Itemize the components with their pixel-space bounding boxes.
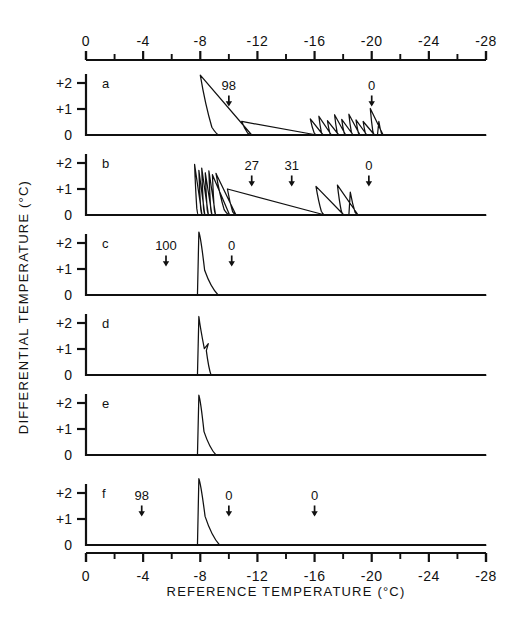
x-tick-label: -28 [475, 568, 497, 584]
x-tick-label: -20 [361, 568, 383, 584]
annotation-value: 27 [244, 158, 258, 173]
x-tick-label: -8 [194, 568, 207, 584]
x-tick-label: -20 [361, 33, 383, 49]
dta-figure: 0-4-8-12-16-20-24-28 0-4-8-12-16-20-24-2… [0, 0, 526, 629]
y-tick-label: +1 [56, 101, 72, 117]
annotation-0: 0 [225, 488, 232, 516]
panel-letter-d: d [102, 316, 109, 331]
x-tick-label: -16 [304, 568, 326, 584]
y-tick-label: +2 [56, 235, 72, 251]
annotation-value: 98 [134, 488, 148, 503]
dta-plot-svg: 0-4-8-12-16-20-24-28 0-4-8-12-16-20-24-2… [0, 0, 526, 629]
annotation-value: 0 [365, 158, 372, 173]
y-tick-label: +2 [56, 155, 72, 171]
panel-letter-a: a [102, 76, 110, 91]
annotation-value: 0 [368, 78, 375, 93]
x-tick-label: 0 [82, 33, 90, 49]
annotation-value: 0 [225, 488, 232, 503]
x-tick-label: -4 [136, 568, 149, 584]
y-axis-title: DIFFERENTIAL TEMPERATURE (°C) [16, 180, 31, 434]
y-tick-label: +1 [56, 261, 72, 277]
annotation-0: 0 [365, 158, 372, 186]
annotation-value: 98 [222, 78, 236, 93]
y-tick-label: 0 [64, 537, 72, 553]
x-tick-label: -12 [247, 33, 269, 49]
annotation-value: 100 [155, 238, 177, 253]
x-tick-label: -28 [475, 33, 497, 49]
x-tick-label: -8 [194, 33, 207, 49]
y-tick-label: 0 [64, 367, 72, 383]
annotation-0: 0 [311, 488, 318, 516]
y-tick-label: +2 [56, 485, 72, 501]
panel-letter-b: b [102, 156, 109, 171]
annotation-0: 0 [368, 78, 375, 106]
y-tick-label: 0 [64, 207, 72, 223]
x-tick-label: -24 [418, 568, 440, 584]
y-tick-label: +2 [56, 75, 72, 91]
panel-letter-f: f [102, 486, 106, 501]
annotation-value: 0 [228, 238, 235, 253]
y-tick-label: 0 [64, 127, 72, 143]
x-tick-label: -24 [418, 33, 440, 49]
y-tick-label: +1 [56, 511, 72, 527]
y-tick-label: +1 [56, 341, 72, 357]
annotation-value: 31 [284, 158, 298, 173]
panel-letter-c: c [102, 236, 109, 251]
x-tick-label: 0 [82, 568, 90, 584]
y-tick-label: +1 [56, 421, 72, 437]
panel-letter-e: e [102, 396, 109, 411]
y-tick-label: +2 [56, 315, 72, 331]
x-tick-label: -4 [136, 33, 149, 49]
figure-background [0, 0, 526, 629]
y-tick-label: 0 [64, 447, 72, 463]
annotation-0: 0 [228, 238, 235, 266]
y-tick-label: 0 [64, 287, 72, 303]
annotation-value: 0 [311, 488, 318, 503]
x-axis-title: REFERENCE TEMPERATURE (°C) [167, 584, 406, 599]
x-tick-label: -12 [247, 568, 269, 584]
y-tick-label: +1 [56, 181, 72, 197]
y-tick-label: +2 [56, 395, 72, 411]
x-tick-label: -16 [304, 33, 326, 49]
